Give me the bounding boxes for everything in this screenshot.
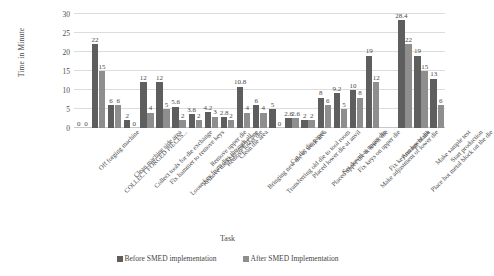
bar-value-label: 5 — [271, 102, 275, 109]
bar-value-label: 2 — [181, 113, 185, 120]
bar-value-label: 5 — [342, 102, 346, 109]
bar-value-label: 2.8 — [220, 110, 229, 117]
bar-before — [366, 56, 372, 128]
y-tick-label: 10 — [63, 86, 71, 95]
bar-before — [334, 93, 340, 128]
bar-after — [325, 105, 331, 128]
bar-after — [115, 105, 121, 128]
bar-value-label: 22 — [405, 37, 412, 44]
bar-group: 125 — [155, 14, 171, 128]
bar-value-label: 8 — [358, 90, 362, 97]
bar-before — [156, 82, 162, 128]
y-axis-tick-labels: 051015202530 — [52, 14, 72, 128]
bar-value-label: 0 — [77, 121, 81, 128]
legend: Before SMED implementationAfter SMED Imp… — [0, 254, 455, 263]
bar-group: 20 — [122, 14, 138, 128]
bar-before — [189, 114, 195, 128]
bar-after — [244, 113, 250, 128]
bar-before — [172, 107, 178, 128]
bar-group: 4.23 — [203, 14, 219, 128]
legend-swatch-icon — [117, 256, 123, 262]
x-axis-title: Task — [0, 234, 455, 243]
bar-value-label: 13 — [430, 71, 437, 78]
bar-value-label: 15 — [421, 64, 428, 71]
bar-value-label: 4 — [149, 105, 153, 112]
bar-value-label: 12 — [156, 75, 163, 82]
legend-label: Before SMED implementation — [125, 254, 217, 263]
bar-group: 10.84 — [235, 14, 251, 128]
bar-after — [260, 113, 266, 128]
bar-after — [179, 120, 185, 128]
bar-before — [398, 20, 404, 128]
legend-label: After SMED Implementation — [251, 254, 339, 263]
bar-group: 2215 — [90, 14, 106, 128]
bar-after — [357, 98, 363, 128]
bar-value-label: 5 — [165, 102, 169, 109]
y-tick-label: 20 — [63, 48, 71, 57]
bar-after — [163, 109, 169, 128]
bars-layer: 00221566201241255.623.624.232.8210.84645… — [74, 14, 445, 128]
y-tick-label: 5 — [66, 105, 70, 114]
bar-after — [292, 118, 298, 128]
bar-before — [301, 120, 307, 128]
bar-group: 1912 — [364, 14, 380, 128]
bar-after — [421, 71, 427, 128]
bar-value-label: 22 — [91, 37, 98, 44]
plot-area: 00221566201241255.623.624.232.8210.84645… — [74, 14, 445, 128]
bar-before — [253, 105, 259, 128]
bar-before — [430, 79, 436, 128]
bar-value-label: 6 — [326, 98, 330, 105]
legend-swatch-icon — [243, 256, 249, 262]
bar-before — [285, 118, 291, 128]
bar-before — [205, 112, 211, 128]
bar-group: 124 — [139, 14, 155, 128]
bar-group: 9.25 — [332, 14, 348, 128]
bar-value-label: 2 — [197, 113, 201, 120]
bar-before — [269, 109, 275, 128]
legend-item: Before SMED implementation — [117, 254, 217, 263]
bar-after — [196, 120, 202, 128]
bar-group: 5.62 — [171, 14, 187, 128]
x-axis-tick-labels: Off forging machineCOLLECT FORGED PIECES… — [74, 129, 445, 234]
bar-before — [318, 98, 324, 128]
bar-before — [221, 117, 227, 128]
bar-before — [140, 82, 146, 128]
bar-value-label: 10.8 — [234, 79, 246, 86]
bar-before — [108, 105, 114, 128]
bar-group: 50 — [268, 14, 284, 128]
bar-group: 136 — [429, 14, 445, 128]
legend-item: After SMED Implementation — [243, 254, 339, 263]
bar-group: 66 — [106, 14, 122, 128]
bar-after — [405, 44, 411, 128]
bar-before — [414, 56, 420, 128]
bar-value-label: 2 — [310, 113, 314, 120]
bar-value-label: 4 — [245, 105, 249, 112]
y-tick-label: 15 — [63, 67, 71, 76]
bar-after — [438, 105, 444, 128]
bar-after — [228, 120, 234, 128]
bar-after — [308, 120, 314, 128]
bar-value-label: 2 — [125, 113, 129, 120]
bar-value-label: 15 — [99, 64, 106, 71]
bar-value-label: 3.6 — [187, 107, 196, 114]
bar-value-label: 3 — [213, 109, 217, 116]
bar-value-label: 6 — [439, 98, 443, 105]
bar-value-label: 8 — [319, 90, 323, 97]
bar-before — [124, 120, 130, 128]
bar-group: 3.62 — [187, 14, 203, 128]
bar-value-label: 5.6 — [171, 99, 180, 106]
bar-group: 108 — [348, 14, 364, 128]
bar-group: 2.62.6 — [284, 14, 300, 128]
y-tick-label: 30 — [63, 10, 71, 19]
bar-group: 2.82 — [219, 14, 235, 128]
y-tick-label: 0 — [66, 124, 70, 133]
bar-after — [99, 71, 105, 128]
bar-group: 28.422 — [397, 14, 413, 128]
bar-group: 22 — [300, 14, 316, 128]
bar-after — [212, 117, 218, 128]
bar-before — [92, 44, 98, 128]
bar-group: 64 — [251, 14, 267, 128]
bar-group: 86 — [316, 14, 332, 128]
bar-value-label: 0 — [133, 121, 137, 128]
